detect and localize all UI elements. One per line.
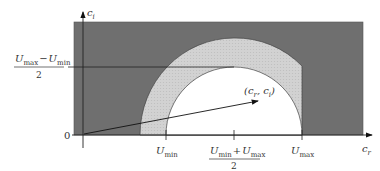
u-min-label: Umin xyxy=(156,145,178,159)
diagram-canvas: ci cr 0 Umin Umin+Umax 2 Umax Umax−Umin … xyxy=(0,0,380,171)
u-max-label: Umax xyxy=(291,145,314,159)
y-tick-numerator: Umax−Umin xyxy=(15,53,71,67)
y-axis-label: ci xyxy=(87,7,95,21)
x-axis-label: cr xyxy=(362,143,372,157)
origin-label: 0 xyxy=(64,130,70,141)
y-tick-denominator: 2 xyxy=(36,70,42,80)
u-mid-numerator: Umin+Umax xyxy=(210,145,265,159)
u-mid-denominator: 2 xyxy=(231,161,237,171)
